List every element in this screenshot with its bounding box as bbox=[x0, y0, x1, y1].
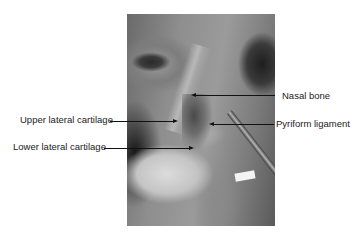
surgical-instrument bbox=[227, 110, 275, 192]
arrowhead-lower-lateral-cartilage bbox=[189, 146, 194, 150]
instrument-glint bbox=[234, 170, 255, 181]
leader-pyriform-ligament bbox=[214, 124, 274, 125]
label-nasal-bone: Nasal bone bbox=[282, 90, 330, 101]
leader-nasal-bone bbox=[196, 95, 275, 96]
arrowhead-upper-lateral-cartilage bbox=[173, 119, 178, 123]
label-lower-lateral-cartilage: Lower lateral cartilage bbox=[13, 141, 106, 152]
dissection-photo bbox=[127, 14, 275, 226]
arrowhead-pyriform-ligament bbox=[209, 122, 214, 126]
arrowhead-nasal-bone bbox=[191, 93, 196, 97]
dissected-region bbox=[182, 94, 212, 149]
leader-upper-lateral-cartilage bbox=[110, 121, 173, 122]
label-pyriform-ligament: Pyriform ligament bbox=[276, 118, 350, 129]
label-upper-lateral-cartilage: Upper lateral cartilage bbox=[20, 114, 113, 125]
leader-lower-lateral-cartilage bbox=[104, 148, 189, 149]
